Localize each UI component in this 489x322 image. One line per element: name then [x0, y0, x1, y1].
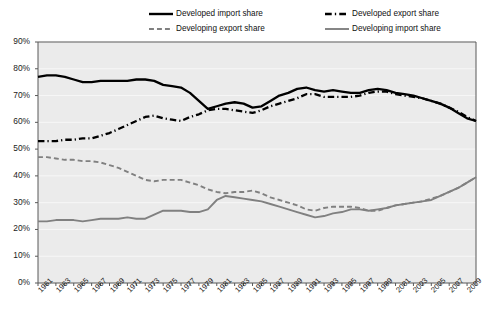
- legend-item-developing-import-share: Developing import share: [324, 21, 441, 36]
- legend-item-developing-export-share: Developing export share: [148, 21, 265, 36]
- y-axis-tick-label: 10%: [2, 251, 30, 260]
- y-axis-tick-label: 90%: [2, 37, 30, 46]
- y-axis-tick-label: 70%: [2, 91, 30, 100]
- legend-item-developed-import-share: Developed import share: [148, 6, 263, 21]
- y-axis-tick-label: 0%: [2, 278, 30, 287]
- legend-label: Developed export share: [352, 9, 439, 19]
- y-axis-tick-label: 80%: [2, 64, 30, 73]
- legend-label: Developed import share: [176, 9, 263, 19]
- legend-swatch-solid-black: [148, 9, 174, 19]
- y-axis-tick-label: 50%: [2, 144, 30, 153]
- legend-label: Developing export share: [176, 24, 265, 34]
- legend-item-developed-export-share: Developed export share: [324, 6, 439, 21]
- y-axis-tick-label: 60%: [2, 117, 30, 126]
- chart-plot-area: [0, 0, 489, 322]
- y-axis-tick-label: 40%: [2, 171, 30, 180]
- y-axis-tick-label: 20%: [2, 224, 30, 233]
- legend-swatch-dashdot-black: [324, 9, 350, 19]
- legend-swatch-solid-gray: [324, 24, 350, 34]
- chart-container: Developed import share Developed export …: [0, 0, 489, 322]
- y-axis-tick-label: 30%: [2, 198, 30, 207]
- chart-legend: Developed import share Developed export …: [148, 6, 448, 36]
- legend-swatch-dashed-gray: [148, 24, 174, 34]
- legend-label: Developing import share: [352, 24, 441, 34]
